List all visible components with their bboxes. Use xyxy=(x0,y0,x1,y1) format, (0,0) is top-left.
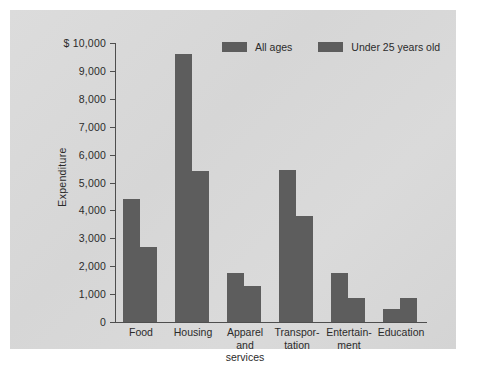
bar xyxy=(400,298,417,322)
bar xyxy=(348,298,365,322)
y-axis-title-text: Expenditure xyxy=(56,122,68,232)
x-axis-line xyxy=(115,322,427,323)
y-axis-tick xyxy=(110,127,116,128)
y-axis-tick-label: 4,000 xyxy=(79,204,106,216)
y-axis-tick-label: 7,000 xyxy=(79,121,106,133)
y-axis-tick xyxy=(110,43,116,44)
bar xyxy=(331,273,348,322)
bar xyxy=(279,170,296,322)
chart-panel: Expenditure All ages Under 25 years old … xyxy=(10,10,456,349)
x-axis-category-label: Food xyxy=(111,326,171,339)
y-axis-tick-label: 1,000 xyxy=(79,288,106,300)
y-axis-tick-label: 8,000 xyxy=(79,93,106,105)
y-axis-tick-label: 9,000 xyxy=(79,65,106,77)
bar xyxy=(140,247,157,322)
y-axis-tick xyxy=(110,266,116,267)
bar xyxy=(296,216,313,322)
y-axis-tick-label: 3,000 xyxy=(79,232,106,244)
y-axis-tick-label: 5,000 xyxy=(79,177,106,189)
y-axis-tick xyxy=(110,322,116,323)
y-axis-tick-label: 0 xyxy=(100,316,106,328)
y-axis-tick xyxy=(110,71,116,72)
y-axis-tick-label: 2,000 xyxy=(79,260,106,272)
x-axis-category-label: Housing xyxy=(163,326,223,339)
x-axis-category-label: Apparel and services xyxy=(215,326,275,364)
x-axis-category-label: Entertain- ment xyxy=(319,326,379,351)
bar xyxy=(175,54,192,322)
plot-area: $ 10,0009,0008,0007,0006,0005,0004,0003,… xyxy=(115,43,427,322)
x-axis-category-label: Education xyxy=(371,326,431,339)
bar xyxy=(244,286,261,322)
bar xyxy=(192,171,209,322)
chart-screenshot: Expenditure All ages Under 25 years old … xyxy=(0,0,478,366)
y-axis-tick xyxy=(110,294,116,295)
bar xyxy=(383,309,400,322)
y-axis-title: Expenditure xyxy=(56,12,68,122)
y-axis-tick-label: 6,000 xyxy=(79,149,106,161)
y-axis-tick-label: $ 10,000 xyxy=(64,37,106,49)
bar xyxy=(123,199,140,322)
y-axis-tick xyxy=(110,210,116,211)
y-axis-tick xyxy=(110,238,116,239)
bar xyxy=(227,273,244,322)
y-axis-tick xyxy=(110,155,116,156)
y-axis-tick xyxy=(110,99,116,100)
x-axis-category-label: Transpor- tation xyxy=(267,326,327,351)
y-axis-tick xyxy=(110,183,116,184)
